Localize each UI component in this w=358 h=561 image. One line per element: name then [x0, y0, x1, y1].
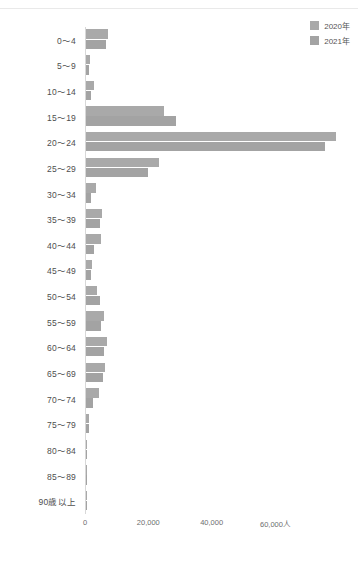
bar-2021年-10〜14[interactable]: [86, 91, 91, 100]
bar-2020年-20〜24[interactable]: [86, 132, 336, 141]
x-axis-tick-label: 60,000人: [260, 518, 290, 529]
category-label: 55〜59: [47, 316, 76, 328]
category-label: 10〜14: [47, 85, 76, 97]
x-axis-tick-label: 0: [83, 518, 87, 527]
category-label: 80〜84: [47, 444, 76, 456]
bar-2020年-80〜84[interactable]: [86, 440, 87, 449]
bar-rows: 0〜45〜910〜1415〜1920〜2425〜2930〜3435〜3940〜4…: [0, 27, 358, 514]
x-axis-tick-label: 20,000: [137, 518, 160, 527]
bar-2021年-85〜89[interactable]: [86, 475, 87, 484]
category-label: 40〜44: [47, 239, 76, 251]
bar-2021年-60〜64[interactable]: [86, 347, 104, 356]
bar-2020年-15〜19[interactable]: [86, 106, 164, 115]
bar-2020年-25〜29[interactable]: [86, 158, 159, 167]
category-label: 5〜9: [57, 59, 76, 71]
category-label: 65〜69: [47, 367, 76, 379]
bar-2021年-75〜79[interactable]: [86, 424, 89, 433]
category-label: 90歳以上: [39, 495, 76, 507]
bar-2021年-35〜39[interactable]: [86, 219, 100, 228]
bar-row: 0〜4: [0, 27, 358, 53]
bar-2020年-45〜49[interactable]: [86, 260, 92, 269]
bar-row: 40〜44: [0, 232, 358, 258]
bar-2021年-25〜29[interactable]: [86, 168, 148, 177]
category-label: 35〜39: [47, 213, 76, 225]
bar-2020年-10〜14[interactable]: [86, 81, 94, 90]
bar-row: 85〜89: [0, 463, 358, 489]
bar-row: 5〜9: [0, 53, 358, 79]
bar-row: 25〜29: [0, 155, 358, 181]
bar-row: 70〜74: [0, 386, 358, 412]
bar-2020年-5〜9[interactable]: [86, 55, 90, 64]
x-axis: 020,00040,00060,000人: [0, 514, 358, 538]
bar-2020年-60〜64[interactable]: [86, 337, 107, 346]
bar-row: 55〜59: [0, 309, 358, 335]
category-label: 30〜34: [47, 188, 76, 200]
bar-row: 80〜84: [0, 437, 358, 463]
bar-chart: 2020年2021年 0〜45〜910〜1415〜1920〜2425〜2930〜…: [0, 9, 358, 561]
bar-2020年-30〜34[interactable]: [86, 183, 96, 192]
bar-2020年-50〜54[interactable]: [86, 286, 97, 295]
bar-2021年-55〜59[interactable]: [86, 321, 101, 330]
bar-row: 65〜69: [0, 360, 358, 386]
bar-2021年-40〜44[interactable]: [86, 245, 94, 254]
bar-2021年-30〜34[interactable]: [86, 193, 91, 202]
bar-2020年-85〜89[interactable]: [86, 465, 87, 474]
category-label: 0〜4: [57, 34, 76, 46]
bar-2021年-90歳以上[interactable]: [86, 501, 87, 510]
bar-row: 75〜79: [0, 411, 358, 437]
category-label: 50〜54: [47, 290, 76, 302]
bar-2021年-80〜84[interactable]: [86, 450, 87, 459]
bar-2021年-65〜69[interactable]: [86, 373, 103, 382]
category-label: 60〜64: [47, 341, 76, 353]
bar-2020年-75〜79[interactable]: [86, 414, 89, 423]
bar-2020年-55〜59[interactable]: [86, 311, 104, 320]
category-label: 25〜29: [47, 162, 76, 174]
bar-row: 35〜39: [0, 206, 358, 232]
bar-2020年-70〜74[interactable]: [86, 388, 99, 397]
bar-row: 10〜14: [0, 78, 358, 104]
bar-row: 50〜54: [0, 283, 358, 309]
bar-row: 15〜19: [0, 104, 358, 130]
bar-2021年-45〜49[interactable]: [86, 270, 91, 279]
category-label: 45〜49: [47, 264, 76, 276]
bar-row: 90歳以上: [0, 488, 358, 514]
category-label: 20〜24: [47, 136, 76, 148]
bar-2020年-35〜39[interactable]: [86, 209, 102, 218]
bar-row: 45〜49: [0, 258, 358, 284]
bar-2021年-70〜74[interactable]: [86, 398, 93, 407]
category-label: 85〜89: [47, 470, 76, 482]
bar-row: 20〜24: [0, 130, 358, 156]
bar-2021年-15〜19[interactable]: [86, 116, 176, 125]
bar-2020年-40〜44[interactable]: [86, 234, 101, 243]
category-label: 70〜74: [47, 393, 76, 405]
category-label: 15〜19: [47, 111, 76, 123]
x-axis-tick-label: 40,000: [200, 518, 223, 527]
bar-2020年-0〜4[interactable]: [86, 29, 108, 38]
bar-2021年-5〜9[interactable]: [86, 65, 89, 74]
bar-2021年-50〜54[interactable]: [86, 296, 100, 305]
bar-2020年-65〜69[interactable]: [86, 363, 105, 372]
bar-2020年-90歳以上[interactable]: [86, 491, 87, 500]
bar-row: 30〜34: [0, 181, 358, 207]
bar-2021年-0〜4[interactable]: [86, 40, 106, 49]
bar-2021年-20〜24[interactable]: [86, 142, 325, 151]
bottom-caption-strip: [0, 545, 358, 561]
category-label: 75〜79: [47, 418, 76, 430]
bar-row: 60〜64: [0, 335, 358, 361]
